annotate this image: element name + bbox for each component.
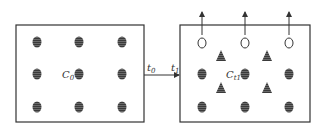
label-t0: t0 — [147, 62, 156, 75]
label-t1: t1 — [171, 62, 180, 75]
label-ct1: Ct1 — [226, 69, 241, 82]
escape-arrows — [202, 12, 289, 35]
final-state-box: Ct1 — [180, 12, 310, 122]
open-circles — [198, 38, 293, 48]
process-diagram: C0 t0 t1 — [0, 0, 323, 132]
particle-grid-right — [198, 69, 294, 113]
transition-arrow: t0 t1 — [144, 62, 180, 75]
particle-grid-left — [33, 37, 127, 113]
initial-state-box: C0 — [16, 25, 144, 122]
label-c0: C0 — [62, 69, 75, 82]
